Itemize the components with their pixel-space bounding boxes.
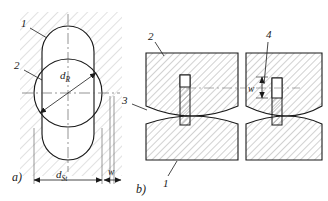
callout-1-leader-b	[168, 161, 177, 176]
caption-b: b)	[136, 182, 146, 196]
lower-die-left	[146, 116, 238, 160]
callout-3-label-b: 3	[121, 94, 128, 106]
subfigure-b: 2 3 1 w 4 b)	[121, 28, 322, 196]
callout-1-label-a: 1	[21, 17, 27, 29]
callout-3-leader-b	[132, 104, 147, 110]
callout-1-label-b: 1	[163, 177, 169, 189]
upper-die-left	[146, 53, 238, 116]
callout-4-label-b: 4	[266, 28, 272, 40]
upper-die-right	[246, 53, 322, 116]
callout-2-label-a: 2	[14, 59, 20, 71]
offset-width-label-b: w	[248, 84, 255, 94]
subfigure-a: dR 1 2 dSt w a)	[12, 12, 122, 184]
caption-a: a)	[12, 170, 22, 184]
lower-die-right	[246, 116, 322, 160]
callout-2-label-b: 2	[148, 30, 154, 42]
hatch-field-a	[20, 12, 122, 176]
technical-drawing: dR 1 2 dSt w a)	[0, 0, 328, 201]
pin-left-head	[180, 75, 190, 87]
gap-width-label-a: w	[108, 167, 115, 177]
